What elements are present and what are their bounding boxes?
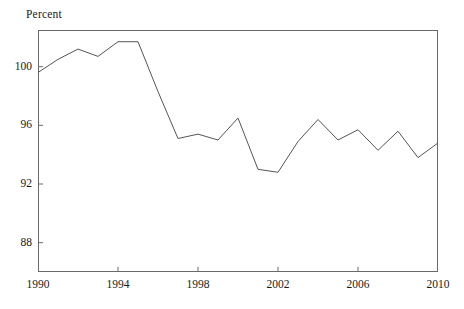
chart-screenshot: Percent 889296100 1990199419982002200620… <box>0 0 464 309</box>
x-axis-tick-marks <box>118 267 358 272</box>
y-tick-label: 100 <box>2 60 32 72</box>
x-tick-label: 1990 <box>16 278 60 290</box>
data-series-line <box>38 42 438 173</box>
x-tick-label: 1998 <box>176 278 220 290</box>
x-tick-label: 2010 <box>416 278 460 290</box>
y-tick-label: 96 <box>2 118 32 130</box>
chart-canvas <box>0 0 464 309</box>
x-tick-label: 2002 <box>256 278 300 290</box>
x-tick-label: 1994 <box>96 278 140 290</box>
y-tick-label: 92 <box>2 177 32 189</box>
y-axis-tick-marks <box>38 67 43 243</box>
y-tick-label: 88 <box>2 236 32 248</box>
x-tick-label: 2006 <box>336 278 380 290</box>
